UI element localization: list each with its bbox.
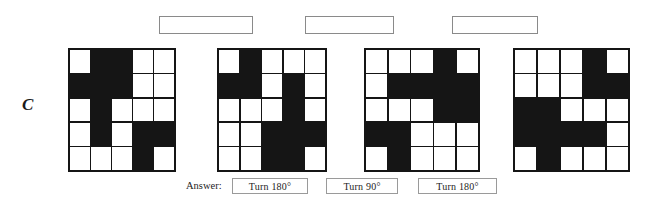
pattern-cell[interactable] — [561, 99, 582, 122]
pattern-grid-2[interactable] — [217, 48, 327, 172]
pattern-cell[interactable] — [219, 50, 239, 73]
pattern-cell[interactable] — [133, 147, 153, 170]
answer-box-1[interactable]: Turn 180° — [232, 178, 308, 194]
pattern-cell[interactable] — [133, 99, 153, 122]
pattern-cell[interactable] — [154, 74, 174, 97]
pattern-cell[interactable] — [112, 123, 132, 146]
pattern-cell[interactable] — [70, 74, 90, 97]
pattern-grid-3[interactable] — [364, 48, 480, 172]
pattern-cell[interactable] — [133, 123, 153, 146]
pattern-cell[interactable] — [241, 123, 261, 146]
pattern-cell[interactable] — [91, 50, 111, 73]
pattern-cell[interactable] — [305, 74, 325, 97]
pattern-cell[interactable] — [112, 147, 132, 170]
answer-box-2[interactable]: Turn 90° — [326, 178, 398, 194]
pattern-cell[interactable] — [366, 147, 387, 170]
pattern-cell[interactable] — [584, 123, 605, 146]
pattern-cell[interactable] — [538, 74, 559, 97]
pattern-cell[interactable] — [457, 99, 478, 122]
pattern-cell[interactable] — [219, 99, 239, 122]
pattern-cell[interactable] — [584, 74, 605, 97]
pattern-cell[interactable] — [561, 123, 582, 146]
pattern-cell[interactable] — [154, 123, 174, 146]
pattern-cell[interactable] — [515, 147, 536, 170]
pattern-cell[interactable] — [434, 50, 455, 73]
pattern-cell[interactable] — [284, 74, 304, 97]
pattern-cell[interactable] — [241, 74, 261, 97]
pattern-cell[interactable] — [411, 123, 432, 146]
pattern-cell[interactable] — [411, 74, 432, 97]
pattern-cell[interactable] — [284, 123, 304, 146]
pattern-cell[interactable] — [154, 147, 174, 170]
pattern-cell[interactable] — [607, 123, 628, 146]
pattern-cell[interactable] — [133, 74, 153, 97]
pattern-cell[interactable] — [70, 123, 90, 146]
pattern-cell[interactable] — [112, 74, 132, 97]
pattern-cell[interactable] — [91, 74, 111, 97]
pattern-cell[interactable] — [91, 123, 111, 146]
pattern-cell[interactable] — [262, 123, 282, 146]
pattern-cell[interactable] — [561, 147, 582, 170]
pattern-cell[interactable] — [154, 99, 174, 122]
pattern-cell[interactable] — [262, 50, 282, 73]
pattern-cell[interactable] — [389, 147, 410, 170]
pattern-cell[interactable] — [434, 74, 455, 97]
pattern-cell[interactable] — [305, 147, 325, 170]
pattern-cell[interactable] — [219, 123, 239, 146]
pattern-cell[interactable] — [305, 123, 325, 146]
pattern-cell[interactable] — [584, 147, 605, 170]
pattern-cell[interactable] — [284, 147, 304, 170]
pattern-cell[interactable] — [262, 99, 282, 122]
pattern-cell[interactable] — [389, 50, 410, 73]
pattern-cell[interactable] — [241, 99, 261, 122]
pattern-grid-4[interactable] — [513, 48, 630, 172]
pattern-cell[interactable] — [434, 147, 455, 170]
pattern-cell[interactable] — [284, 50, 304, 73]
pattern-cell[interactable] — [366, 50, 387, 73]
blank-answer-box-1[interactable] — [159, 16, 253, 34]
pattern-cell[interactable] — [389, 74, 410, 97]
pattern-cell[interactable] — [305, 99, 325, 122]
pattern-cell[interactable] — [515, 123, 536, 146]
pattern-cell[interactable] — [434, 123, 455, 146]
pattern-cell[interactable] — [262, 74, 282, 97]
pattern-cell[interactable] — [219, 74, 239, 97]
pattern-cell[interactable] — [411, 147, 432, 170]
pattern-cell[interactable] — [133, 50, 153, 73]
pattern-cell[interactable] — [607, 50, 628, 73]
pattern-cell[interactable] — [607, 74, 628, 97]
pattern-cell[interactable] — [91, 147, 111, 170]
pattern-cell[interactable] — [561, 74, 582, 97]
pattern-cell[interactable] — [538, 147, 559, 170]
pattern-cell[interactable] — [389, 99, 410, 122]
pattern-cell[interactable] — [91, 99, 111, 122]
pattern-cell[interactable] — [515, 99, 536, 122]
pattern-cell[interactable] — [607, 147, 628, 170]
pattern-cell[interactable] — [241, 50, 261, 73]
blank-answer-box-2[interactable] — [305, 16, 394, 34]
pattern-cell[interactable] — [457, 147, 478, 170]
pattern-cell[interactable] — [515, 50, 536, 73]
pattern-cell[interactable] — [241, 147, 261, 170]
pattern-cell[interactable] — [538, 99, 559, 122]
pattern-cell[interactable] — [284, 99, 304, 122]
pattern-cell[interactable] — [607, 99, 628, 122]
pattern-cell[interactable] — [305, 50, 325, 73]
pattern-cell[interactable] — [584, 99, 605, 122]
pattern-cell[interactable] — [366, 74, 387, 97]
pattern-cell[interactable] — [70, 50, 90, 73]
pattern-cell[interactable] — [366, 123, 387, 146]
pattern-cell[interactable] — [411, 99, 432, 122]
pattern-cell[interactable] — [538, 123, 559, 146]
pattern-cell[interactable] — [366, 99, 387, 122]
blank-answer-box-3[interactable] — [452, 16, 538, 34]
pattern-cell[interactable] — [434, 99, 455, 122]
pattern-grid-1[interactable] — [68, 48, 176, 172]
pattern-cell[interactable] — [561, 50, 582, 73]
pattern-cell[interactable] — [219, 147, 239, 170]
pattern-cell[interactable] — [457, 123, 478, 146]
pattern-cell[interactable] — [584, 50, 605, 73]
pattern-cell[interactable] — [70, 147, 90, 170]
pattern-cell[interactable] — [112, 50, 132, 73]
pattern-cell[interactable] — [457, 74, 478, 97]
